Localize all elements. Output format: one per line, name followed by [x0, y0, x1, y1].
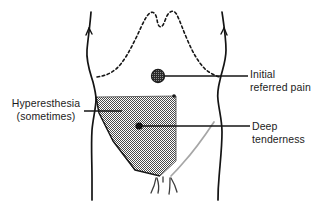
- label-deep-tenderness-line2: tenderness: [252, 133, 305, 146]
- label-initial-referred-pain-line2: referred pain: [250, 81, 311, 94]
- torso-outline: [86, 12, 96, 200]
- label-deep-tenderness-line1: Deep: [252, 120, 305, 133]
- deep-tenderness-dot: [135, 122, 142, 129]
- label-deep-tenderness: Deep tenderness: [252, 120, 305, 145]
- label-hyperesthesia-line2: (sometimes): [8, 110, 84, 123]
- region-apex-tick: [172, 94, 176, 98]
- pubic-hair-marks: [151, 177, 177, 194]
- label-hyperesthesia: Hyperesthesia (sometimes): [8, 97, 84, 122]
- costal-margin-dashed: [97, 11, 220, 77]
- label-initial-referred-pain-line1: Initial: [250, 68, 311, 81]
- torso-outline-right: [218, 12, 227, 200]
- inguinal-ligament-line: [171, 122, 214, 176]
- abdominal-pain-diagram: Hyperesthesia (sometimes) Initial referr…: [0, 0, 312, 205]
- hyperesthesia-region: [96, 96, 176, 176]
- initial-referred-pain-dot: [151, 69, 164, 82]
- label-initial-referred-pain: Initial referred pain: [250, 68, 311, 93]
- label-hyperesthesia-line1: Hyperesthesia: [8, 97, 84, 110]
